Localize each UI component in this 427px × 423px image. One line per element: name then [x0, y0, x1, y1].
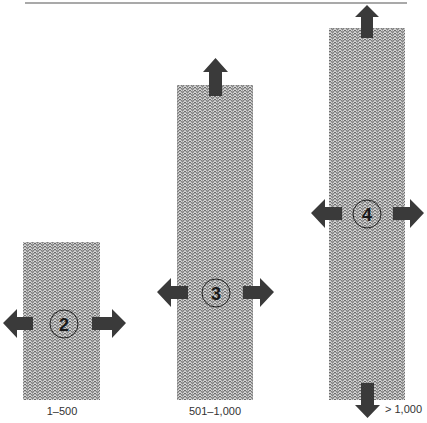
column-number: 4	[362, 205, 372, 225]
column-bar	[177, 85, 253, 400]
column-501-1000: 3 501–1,000	[157, 58, 274, 417]
column-label: 1–500	[47, 405, 78, 417]
column-diagram: 2 1–500 3 501–1,000 4 > 1,000	[0, 0, 427, 423]
column-label: > 1,000	[385, 403, 422, 415]
column-label: 501–1,000	[189, 405, 241, 417]
column-number: 3	[211, 284, 221, 304]
column-over-1000: 4 > 1,000	[311, 5, 424, 418]
column-1-500: 2 1–500	[3, 242, 126, 417]
column-number: 2	[59, 315, 69, 335]
